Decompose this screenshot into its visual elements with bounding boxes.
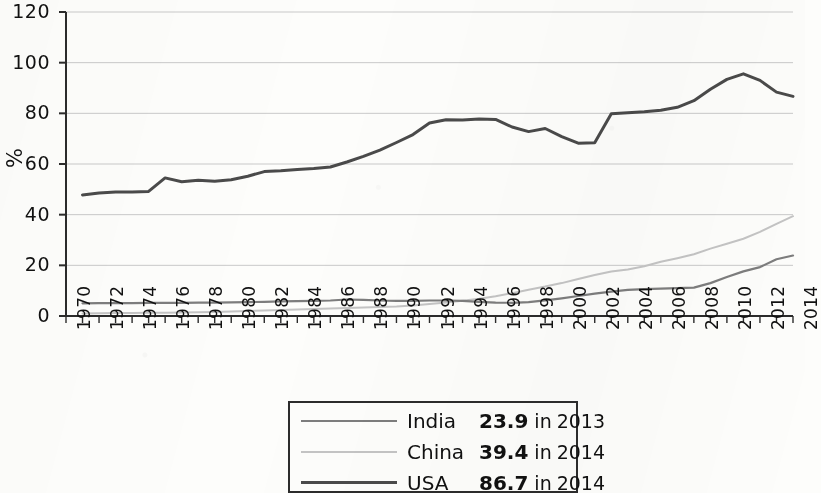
x-tick-label: 1996 [504,286,524,330]
x-tick-label: 2000 [570,286,590,330]
legend-year-china: 2014 [557,441,605,463]
legend-item-usa: USA 86.7 in 2014 [290,469,576,493]
x-tick-label: 2004 [636,286,656,330]
legend-value-usa: 86.7 [479,471,528,493]
y-tick-label: 120 [0,0,50,22]
x-tick-label: 1976 [173,286,193,330]
x-tick-label: 1998 [537,286,557,330]
legend-item-india: India 23.9 in 2013 [290,407,576,434]
x-tick-label: 2010 [735,286,755,330]
x-tick-label: 1990 [404,286,424,330]
data-series-group [83,74,794,314]
y-tick-label: 100 [0,51,50,73]
legend-year-usa: 2014 [557,472,605,493]
x-tick-label: 2014 [801,286,821,330]
legend-in-china: in [534,441,551,463]
legend-label-india: India [407,409,475,433]
x-tick-label: 1992 [438,286,458,330]
x-tick-label: 1978 [206,286,226,330]
y-tick-label: 80 [0,101,50,123]
x-tick-label: 2002 [603,286,623,330]
legend-label-usa: USA [407,471,475,493]
x-tick-label: 2008 [702,286,722,330]
y-tick-label: 0 [0,304,50,326]
legend-swatch-usa [301,481,397,484]
legend-in-india: in [534,410,551,432]
legend-value-china: 39.4 [479,440,528,464]
legend-in-usa: in [534,472,551,493]
x-tick-label: 2012 [768,286,788,330]
y-axis-title: % [3,141,27,175]
x-tick-label: 1988 [371,286,391,330]
y-tick-label: 40 [0,203,50,225]
x-tick-label: 1972 [107,286,127,330]
y-tick-marks [59,12,66,316]
legend-item-china: China 39.4 in 2014 [290,438,576,465]
x-tick-label: 1986 [338,286,358,330]
x-tick-label: 1970 [74,286,94,330]
chart-legend: India 23.9 in 2013 China 39.4 in 2014 US… [288,401,578,493]
x-tick-label: 1974 [140,286,160,330]
x-tick-label: 2006 [669,286,689,330]
legend-year-india: 2013 [557,410,605,432]
x-tick-label: 1982 [272,286,292,330]
x-tick-label: 1994 [471,286,491,330]
legend-swatch-india [301,420,397,422]
x-tick-label: 1980 [239,286,259,330]
y-tick-label: 20 [0,253,50,275]
x-tick-label: 1984 [305,286,325,330]
legend-swatch-china [301,451,397,453]
legend-value-india: 23.9 [479,409,528,433]
legend-label-china: China [407,440,475,464]
gridlines [66,12,793,265]
